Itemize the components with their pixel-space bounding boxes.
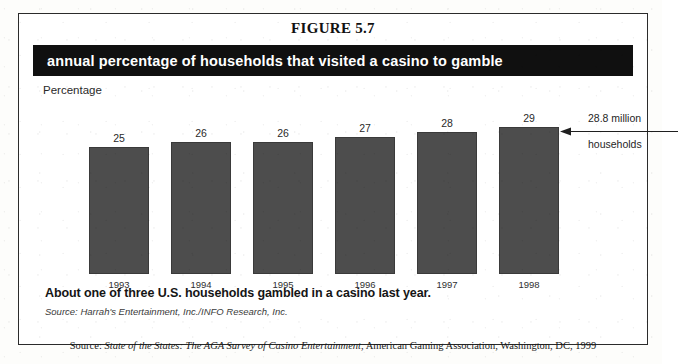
callout-annotation: 28.8 million households (560, 112, 680, 160)
bar-1995 (253, 142, 313, 274)
bar-value-label: 26 (171, 127, 231, 139)
banner-title-text: annual percentage of households that vis… (33, 53, 503, 69)
bar-group-1993: 251993 (89, 112, 149, 274)
bar-value-label: 27 (335, 122, 395, 134)
source-title-italic: State of the States: The AGA Survey of C… (104, 340, 361, 351)
bar-group-1995: 261995 (253, 112, 313, 274)
bar-1996 (335, 137, 395, 274)
source-prefix: Source: (70, 340, 105, 351)
bar-group-1998: 291998 (499, 112, 559, 274)
bar-value-label: 26 (253, 127, 313, 139)
figure-frame: FIGURE 5.7 annual percentage of househol… (18, 13, 648, 345)
bar-1997 (417, 132, 477, 274)
y-axis-label: Percentage (43, 84, 102, 96)
bar-group-1996: 271996 (335, 112, 395, 274)
x-axis-tick-1998: 1998 (499, 279, 559, 290)
figure-title: FIGURE 5.7 (19, 20, 647, 37)
source-suffix: , American Gaming Association, Washingto… (361, 340, 596, 351)
bar-1993 (89, 147, 149, 274)
inner-source-note: Source: Harrah's Entertainment, Inc./INF… (45, 306, 288, 317)
bottom-source-note: Source: State of the States: The AGA Sur… (19, 340, 647, 351)
bar-value-label: 25 (89, 132, 149, 144)
bar-group-1994: 261994 (171, 112, 231, 274)
bar-group-1997: 281997 (417, 112, 477, 274)
callout-line-1: 28.8 million (588, 112, 641, 124)
bar-plot: 251993261994261995271996281997291998 (89, 112, 559, 274)
figure-caption: About one of three U.S. households gambl… (45, 286, 431, 300)
bar-1994 (171, 142, 231, 274)
figure-banner: annual percentage of households that vis… (33, 45, 633, 76)
bar-value-label: 28 (417, 117, 477, 129)
chart-area: Percentage 25199326199426199527199628199… (33, 84, 633, 274)
bar-value-label: 29 (499, 112, 559, 124)
bar-1998 (499, 127, 559, 274)
callout-line-2: households (588, 138, 642, 150)
callout-arrow-icon (560, 127, 678, 136)
